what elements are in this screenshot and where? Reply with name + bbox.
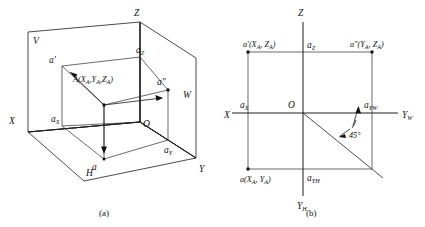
captions-layer: (a) (b) (0, 0, 425, 227)
caption-b: (b) (306, 208, 317, 218)
caption-a: (a) (99, 208, 109, 218)
figure-root: V H W X Y Z O a′ a″ a aX aY aZ A(XA,YA,Z… (0, 0, 425, 227)
